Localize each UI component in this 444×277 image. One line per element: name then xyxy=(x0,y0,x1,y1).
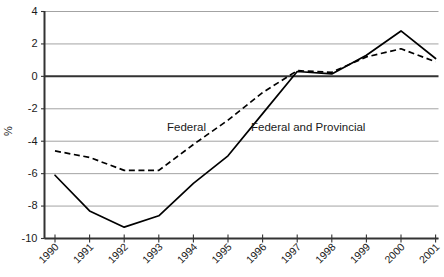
y-axis-tick-label: 4 xyxy=(31,5,37,17)
y-axis-tick-label: -10 xyxy=(22,232,38,244)
y-axis-title: % xyxy=(2,126,14,136)
series-annotation-federal-and-provincial: Federal and Provincial xyxy=(251,121,365,133)
y-axis-tick-label: -4 xyxy=(28,135,38,147)
line-chart: 420-2-4-6-8-10 1990199119921993199419951… xyxy=(0,0,444,277)
chart-background xyxy=(0,0,444,277)
series-annotation-federal: Federal xyxy=(167,121,206,133)
y-axis-tick-label: -6 xyxy=(28,167,38,179)
y-axis-tick-label: 2 xyxy=(31,37,37,49)
chart-container: 420-2-4-6-8-10 1990199119921993199419951… xyxy=(0,0,444,277)
y-axis-tick-label: -8 xyxy=(28,199,38,211)
y-axis-tick-label: -2 xyxy=(28,102,38,114)
y-axis-tick-label: 0 xyxy=(31,70,37,82)
